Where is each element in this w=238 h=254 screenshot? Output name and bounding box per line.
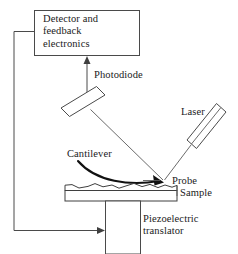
afm-diagram: Detector and feedback electronics Photod… [0,0,238,254]
photodiode-label: Photodiode [94,69,143,81]
cantilever-label: Cantilever [67,148,112,160]
detector-box-label: Detector and feedback electronics [43,13,138,50]
probe-label: Probe [172,175,197,187]
cantilever-arm[interactable] [78,161,164,186]
sample-label: Sample [180,187,212,199]
laser-label: Laser [181,106,205,118]
feedback-arrowhead [97,227,105,234]
photodiode-signal-arrowhead [84,56,91,64]
reflected-laser-beam [91,110,164,181]
photodiode-plate[interactable] [61,87,105,117]
piezoelectric-translator-label: Piezoelectric translator [143,213,233,238]
photodiode-signal-line [84,56,91,95]
piezoelectric-translator-box[interactable] [106,201,141,254]
sample-slab[interactable] [65,183,177,201]
feedback-loop-wire [14,32,105,235]
